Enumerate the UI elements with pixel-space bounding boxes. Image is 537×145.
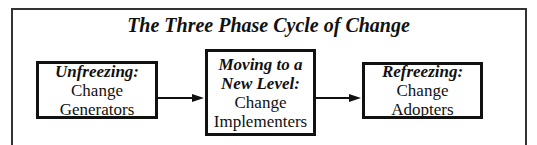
arrow-right-icon: [158, 94, 204, 102]
arrow-right-icon: [316, 94, 361, 102]
edges: [0, 0, 537, 145]
